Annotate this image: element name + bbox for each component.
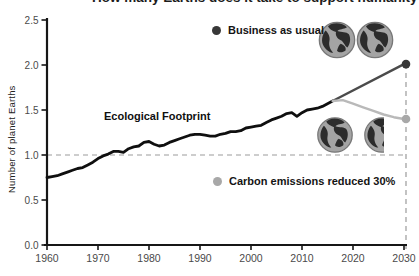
x-tick-label: 1990: [188, 252, 212, 264]
x-tick-label: 2000: [239, 252, 263, 264]
legend-dot-gray: [213, 177, 222, 186]
y-tick-label: 2.0: [25, 60, 39, 71]
y-tick-label: 1.5: [25, 105, 39, 116]
y-tick-label: 1.0: [25, 150, 39, 161]
partial-earth-globe-icon: [365, 118, 399, 152]
y-tick-label: 0.5: [25, 195, 39, 206]
axes: 0.00.51.01.52.02.51960197019801990200020…: [25, 15, 416, 265]
series-annotation: Ecological Footprint: [104, 110, 210, 122]
line-chart: 0.00.51.01.52.02.51960197019801990200020…: [0, 0, 419, 276]
x-tick-label: 2030: [392, 252, 416, 264]
series-endpoint-dot: [402, 60, 411, 69]
legend-business-as-usual: Business as usual: [212, 24, 324, 36]
legend-dot-dark: [212, 26, 221, 35]
legend-carbon-reduced: Carbon emissions reduced 30%: [213, 175, 395, 187]
x-tick-label: 1970: [86, 252, 110, 264]
earth-globe-icon: [318, 118, 352, 152]
series-line: [333, 100, 404, 119]
x-tick-label: 2010: [290, 252, 314, 264]
chart-figure: How many Earths does it take to support …: [0, 0, 419, 276]
earth-globe-icon: [319, 22, 354, 57]
y-tick-label: 0.0: [25, 240, 39, 251]
earth-globe-icon: [357, 22, 392, 57]
x-tick-label: 1980: [137, 252, 161, 264]
x-tick-label: 1960: [35, 252, 59, 264]
legend-label: Carbon emissions reduced 30%: [229, 175, 395, 187]
y-tick-label: 2.5: [25, 15, 39, 26]
legend-label: Business as usual: [228, 24, 324, 36]
x-tick-label: 2020: [341, 252, 365, 264]
reduced-scenario-earths: [318, 118, 399, 152]
business-as-usual-earths: [319, 22, 392, 57]
series-endpoint-dot: [402, 115, 411, 124]
data-series: [47, 60, 410, 178]
series-line: [333, 64, 404, 101]
